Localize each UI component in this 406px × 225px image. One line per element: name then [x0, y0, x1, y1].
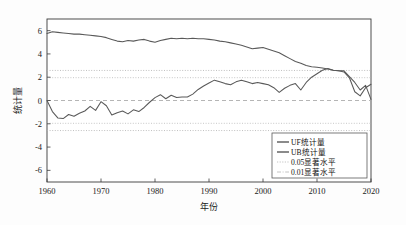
x-tick-label-1970: 1970: [93, 186, 110, 196]
x-axis-label: 年份: [200, 201, 218, 212]
y-tick-label--6: -6: [35, 165, 42, 175]
y-tick-label--4: -4: [35, 142, 43, 152]
x-tick-label-2010: 2010: [309, 186, 326, 196]
chart-plot-area: -6-4-202461960197019801990200020102020年份…: [0, 0, 406, 225]
x-tick-label-2020: 2020: [363, 186, 380, 196]
y-axis-label: 统计量: [12, 87, 23, 114]
x-tick-label-1980: 1980: [147, 186, 164, 196]
y-tick-label-6: 6: [38, 26, 42, 36]
legend-label-0: UF统计量: [291, 137, 325, 147]
chart-figure: -6-4-202461960197019801990200020102020年份…: [0, 0, 406, 225]
y-tick-label--2: -2: [35, 119, 42, 129]
legend-label-3: 0.01显著水平: [291, 167, 336, 177]
legend-label-1: UB统计量: [291, 147, 326, 157]
y-tick-label-0: 0: [38, 96, 42, 106]
mann-kendall-chart: -6-4-202461960197019801990200020102020年份…: [0, 0, 406, 225]
legend-label-2: 0.05显著水平: [291, 157, 336, 167]
y-tick-label-2: 2: [38, 72, 42, 82]
x-tick-label-1990: 1990: [201, 186, 218, 196]
x-tick-label-2000: 2000: [255, 186, 272, 196]
x-tick-label-1960: 1960: [39, 186, 56, 196]
